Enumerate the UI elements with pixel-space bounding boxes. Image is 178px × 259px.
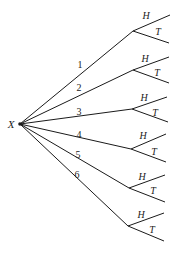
root-label: X (7, 118, 16, 130)
outcome-label-T: T (155, 26, 162, 37)
root-node (18, 122, 22, 126)
outcome-label-T: T (151, 146, 158, 157)
outcome-label-H: H (137, 171, 146, 182)
branch-2: 2HT (20, 53, 169, 124)
outcome-line-T (133, 31, 169, 43)
outcome-label-T: T (154, 67, 161, 78)
outcome-line-T (133, 70, 169, 83)
outcome-label-T: T (150, 185, 157, 196)
probability-tree-diagram: 1HT2HT3HT4HT5HT6HTX (0, 0, 178, 259)
outcome-line-T (132, 109, 168, 122)
outcome-label-H: H (138, 130, 147, 141)
outcome-line-T (131, 149, 166, 162)
outcome-label-T: T (149, 224, 156, 235)
outcome-label-H: H (141, 10, 150, 21)
branch-line (20, 124, 131, 149)
outcome-line-T (128, 226, 164, 241)
branch-label: 1 (78, 59, 83, 70)
branch-label: 5 (76, 149, 81, 160)
branch-label: 3 (77, 106, 82, 117)
branch-label: 4 (77, 129, 82, 140)
outcome-line-T (129, 188, 165, 202)
outcome-label-H: H (140, 53, 149, 64)
outcome-line-H (131, 134, 166, 149)
branch-label: 2 (77, 82, 82, 93)
outcome-label-H: H (139, 92, 148, 103)
branch-6: 6HT (20, 124, 164, 241)
branch-3: 3HT (20, 92, 168, 124)
branch-1: 1HT (20, 10, 170, 124)
outcome-label-H: H (136, 209, 145, 220)
outcome-line-H (128, 213, 164, 226)
outcome-label-T: T (152, 107, 159, 118)
outcome-line-H (132, 97, 167, 109)
outcome-line-H (133, 57, 169, 70)
branch-4: 4HT (20, 124, 166, 162)
branch-label: 6 (75, 169, 80, 180)
outcome-line-H (129, 175, 165, 188)
outcome-line-H (133, 15, 170, 31)
